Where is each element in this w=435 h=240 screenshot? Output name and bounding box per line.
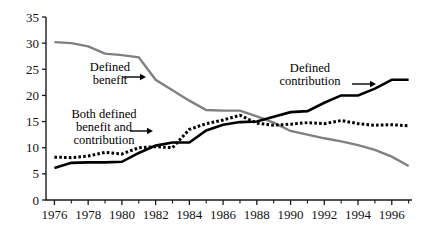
y-tick-label: 5: [33, 166, 40, 181]
y-tick-label: 35: [26, 10, 39, 25]
annotation-label: contribution: [73, 133, 135, 147]
x-tick-label: 1984: [176, 207, 203, 222]
y-tick-label: 0: [33, 193, 40, 208]
x-axis-tick-labels: 1976197819801982198419861988199019921994…: [41, 207, 405, 222]
annotation-label: Defined: [90, 60, 131, 74]
line-chart: 05101520253035 1976197819801982198419861…: [0, 0, 435, 240]
x-tick-label: 1982: [143, 207, 169, 222]
x-tick-label: 1990: [278, 207, 304, 222]
y-tick-label: 10: [26, 140, 39, 155]
x-tick-label: 1992: [311, 207, 337, 222]
y-tick-label: 15: [26, 114, 39, 129]
x-tick-label: 1988: [244, 207, 270, 222]
x-tick-label: 1986: [210, 207, 237, 222]
annotation-label: Defined: [290, 61, 331, 75]
annotation-label: benefit: [93, 73, 128, 87]
annotation-label: contribution: [279, 74, 341, 88]
annotation-label: Both defined: [72, 107, 138, 121]
x-tick-label: 1978: [75, 207, 101, 222]
chart-container: 05101520253035 1976197819801982198419861…: [0, 0, 435, 240]
x-tick-label: 1976: [41, 207, 68, 222]
y-tick-label: 30: [26, 36, 39, 51]
y-tick-label: 25: [26, 62, 39, 77]
x-tick-label: 1994: [345, 207, 372, 222]
y-tick-label: 20: [26, 88, 39, 103]
x-tick-label: 1980: [109, 207, 135, 222]
annotation-label: benefit and: [76, 120, 133, 134]
x-tick-label: 1996: [379, 207, 406, 222]
